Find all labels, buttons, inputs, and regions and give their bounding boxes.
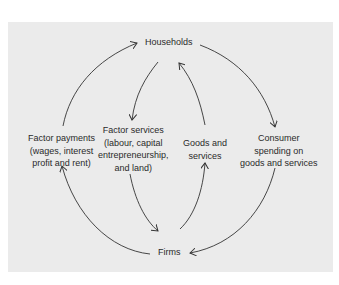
node-households: Households: [145, 36, 193, 49]
arrow-households-to-factor-services: [132, 62, 158, 120]
label-factor-payments: Factor payments (wages, interest profit …: [28, 132, 95, 170]
arrow-firms-to-factor-payments: [62, 166, 150, 254]
firms: Firms: [158, 246, 181, 259]
label-factor-services: Factor services (labour, capital entrepr…: [98, 124, 169, 174]
label-goods-services: Goods and services: [183, 137, 227, 162]
label-consumer-spending: Consumer spending on goods and services: [240, 132, 318, 170]
arrow-households-to-consumer: [200, 45, 275, 127]
arrow-firms-to-goods: [180, 163, 205, 229]
arrow-factor-payments-up: [63, 43, 137, 126]
arrow-goods-to-households: [179, 63, 205, 125]
arrow-factor-services-to-firms: [130, 174, 158, 231]
